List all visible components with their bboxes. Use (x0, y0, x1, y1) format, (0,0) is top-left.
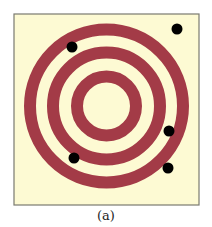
target-figure: (a) (0, 0, 212, 227)
target-diagram (0, 0, 212, 227)
hit-dot (172, 24, 183, 35)
hit-dot (164, 126, 175, 137)
hit-dot (67, 42, 78, 53)
figure-caption: (a) (0, 208, 212, 223)
hit-dot (69, 153, 80, 164)
frame-box (14, 14, 199, 205)
hit-dot (163, 163, 174, 174)
